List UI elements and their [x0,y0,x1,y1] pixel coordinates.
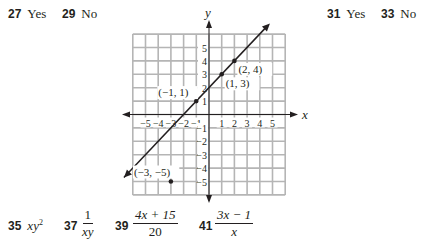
fraction-denominator: 20 [149,224,162,239]
y-tick-label: −5 [196,177,207,188]
y-tick-label: −3 [196,150,207,161]
y-tick-label: −1 [196,123,207,134]
y-tick-label: −4 [196,163,207,174]
plotted-point [232,59,237,64]
y-tick-label: 5 [202,43,207,54]
point-label: (−1, 1) [158,86,188,99]
answer-expression: xy [27,218,39,233]
y-axis-arrow-up-icon [206,20,212,28]
y-axis-arrow-down-icon [206,195,212,203]
answer-41-fraction: 3x − 1 x [215,208,253,239]
x-tick-label: −4 [153,118,164,129]
plotted-point [194,99,199,104]
answer-37-fraction: 1 xy [82,208,94,239]
x-axis-label: x [301,107,308,122]
y-tick-label: 3 [202,69,207,80]
answer-37-number: 37 [64,218,83,234]
answer-39-number: 39 [115,218,134,234]
x-tick-label: 5 [270,118,275,129]
answer-39-fraction: 4x + 15 20 [133,208,178,239]
answer-exponent: 2 [39,218,43,227]
plotted-point [169,179,174,184]
fraction-denominator: x [231,224,237,239]
plotted-point [219,72,224,77]
point-label: (2, 4) [238,63,262,76]
problem-number: 39 [115,219,128,233]
fraction-denominator: xy [82,224,94,239]
fraction-numerator: 3x − 1 [215,208,253,224]
x-tick-label: 1 [219,118,224,129]
problem-number: 41 [199,219,212,233]
y-tick-label: −2 [196,136,207,147]
problem-number: 37 [64,219,77,233]
x-tick-label: 3 [245,118,250,129]
x-tick-label: −5 [140,118,151,129]
x-tick-label: 4 [257,118,262,129]
x-axis-arrow-left-icon [122,112,130,118]
coordinate-graph: xy−5−4−3−2−11234554321−1−2−3−4−5(2, 4)(1… [0,0,421,250]
y-tick-label: 4 [202,56,207,67]
fraction-numerator: 4x + 15 [133,208,178,224]
answer-35: 35xy2 [8,218,43,234]
point-label: (−3, −5) [134,166,171,179]
fraction-numerator: 1 [83,208,94,224]
x-axis-arrow-right-icon [290,112,298,118]
y-axis-label: y [203,5,211,20]
point-label: (1, 3) [226,77,250,90]
y-tick-label: 1 [202,96,207,107]
problem-number: 35 [8,219,21,233]
x-tick-label: 2 [232,118,237,129]
